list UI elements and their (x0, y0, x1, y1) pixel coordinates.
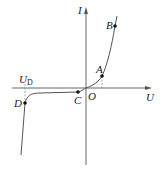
point-b (113, 24, 117, 28)
point-a-label: A (96, 64, 103, 75)
x-axis-arrow-icon (145, 86, 152, 90)
y-axis-arrow-icon (84, 7, 88, 14)
origin-label: O (88, 91, 96, 102)
point-d (23, 101, 27, 105)
ud-main: U (19, 73, 27, 85)
ud-sub: D (27, 78, 33, 87)
y-axis-label: I (78, 5, 82, 16)
iv-diagram (0, 0, 161, 175)
x-axis-label: U (146, 92, 154, 103)
breakdown-voltage-label: UD (19, 74, 33, 87)
point-c-label: C (74, 95, 81, 106)
point-b-label: B (106, 20, 113, 31)
point-d-label: D (14, 98, 22, 109)
